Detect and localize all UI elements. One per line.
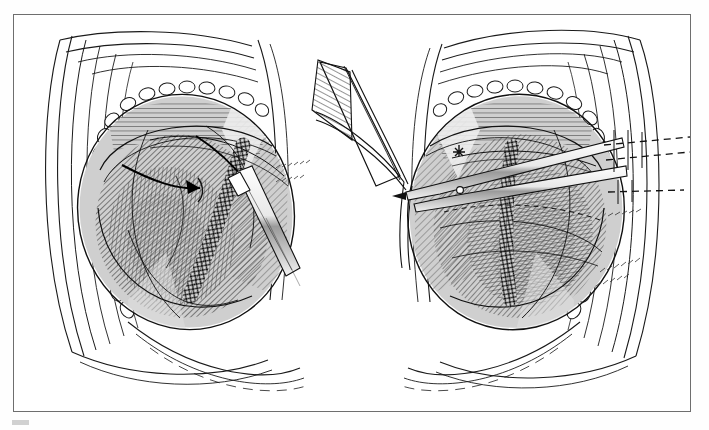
illustration-page	[0, 0, 709, 430]
panel-left	[46, 32, 317, 385]
scissors-hinge-pivot	[457, 187, 464, 194]
retractor-blade	[312, 60, 412, 270]
surgical-illustration-canvas	[0, 0, 709, 430]
lower-fascia-sweeps	[128, 322, 580, 391]
panel-right	[389, 30, 690, 388]
wound-cavity-right	[391, 79, 640, 344]
wound-cavity-left	[58, 76, 314, 347]
caption	[13, 414, 691, 430]
